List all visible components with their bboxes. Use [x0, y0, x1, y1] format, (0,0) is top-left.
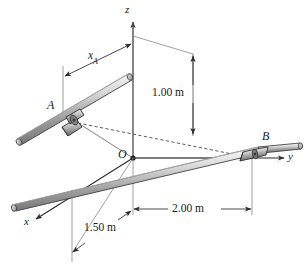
rod-lower: [11, 147, 262, 212]
axis-label-x: x: [24, 216, 29, 227]
axis-label-y: y: [288, 151, 293, 162]
dimension-label-2-00m: 2.00 m: [172, 203, 204, 215]
extension-line-x-lower: [72, 158, 133, 253]
figure-canvas: [0, 0, 306, 270]
point-label-b: B: [262, 130, 269, 142]
collar-b: [240, 147, 268, 161]
axis-label-z: z: [125, 4, 129, 15]
point-label-a: A: [47, 99, 54, 111]
extension-line-top: [133, 36, 193, 54]
dimension-xa: [65, 44, 131, 76]
dimension-label-xa-sub: A: [93, 57, 98, 66]
dimension-label-1-00m: 1.00 m: [152, 87, 184, 99]
rod-upper: [15, 73, 134, 147]
dimension-label-xa: xA: [88, 50, 98, 64]
origin-label-o: O: [118, 148, 127, 160]
dashed-line-ab: [78, 123, 252, 158]
engineering-figure: z y x O A B xA 1.00 m 2.00 m 1.50 m: [0, 0, 306, 270]
dimension-label-1-50m: 1.50 m: [84, 222, 116, 234]
